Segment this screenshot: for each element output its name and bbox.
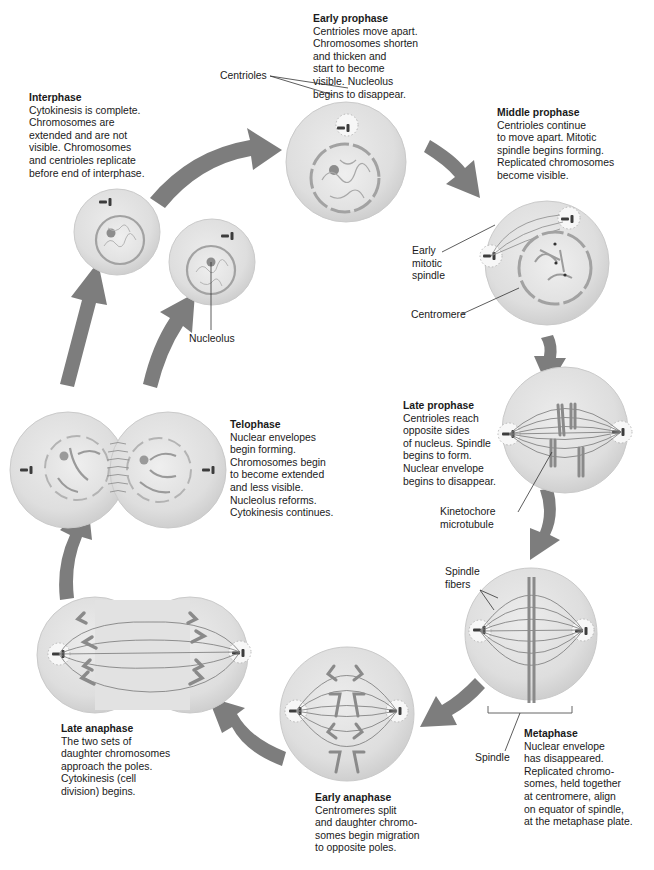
arrow-interphase-to-early-prophase bbox=[150, 128, 282, 208]
caption-line: Cytokinesis continues. bbox=[230, 507, 333, 520]
label-text: Spindle bbox=[445, 566, 480, 579]
middle-prophase-cell bbox=[480, 201, 609, 325]
caption-line: Replicated chromosomes bbox=[497, 157, 614, 170]
arrow-early-to-late-anaphase bbox=[208, 697, 286, 766]
label-text: spindle bbox=[412, 270, 445, 283]
caption-line: daughter chromosomes bbox=[61, 748, 170, 761]
label-text: mitotic bbox=[412, 258, 445, 271]
caption-line: Nuclear envelope bbox=[524, 741, 633, 754]
caption-line: to opposite poles. bbox=[315, 842, 420, 855]
label-text: Kinetochore bbox=[440, 506, 495, 519]
caption-telophase: Telophase Nuclear envelopes begin formin… bbox=[230, 419, 333, 520]
caption-line: begins to form. bbox=[403, 450, 496, 463]
caption-line: has disappeared. bbox=[524, 753, 633, 766]
metaphase-cell bbox=[465, 568, 597, 713]
caption-late-prophase: Late prophase Centrioles reach opposite … bbox=[403, 400, 496, 488]
early-anaphase-cell bbox=[280, 647, 414, 781]
caption-line: Centrioles reach bbox=[403, 413, 496, 426]
label-text: microtubule bbox=[440, 519, 495, 532]
label-text: Early bbox=[412, 245, 445, 258]
arrow-metaphase-to-early-anaphase bbox=[420, 678, 485, 727]
caption-early-prophase: Early prophase Centrioles move apart. Ch… bbox=[313, 13, 418, 101]
spindle-leader bbox=[505, 713, 520, 751]
caption-line: Cytokinesis (cell bbox=[61, 773, 170, 786]
telophase-cell bbox=[10, 412, 226, 528]
caption-line: visible. Chromosomes bbox=[29, 142, 145, 155]
label-text: Centrioles bbox=[220, 70, 267, 83]
caption-title: Middle prophase bbox=[497, 107, 614, 120]
label-early-mitotic-spindle: Early mitotic spindle bbox=[412, 245, 445, 283]
caption-line: Centrioles move apart. bbox=[313, 26, 418, 39]
caption-line: Chromosomes are bbox=[29, 117, 145, 130]
caption-title: Early anaphase bbox=[315, 792, 420, 805]
caption-line: somes begin migration bbox=[315, 830, 420, 843]
label-nucleolus: Nucleolus bbox=[189, 333, 235, 346]
interphase-cell-1 bbox=[74, 189, 160, 275]
caption-line: Replicated chromo- bbox=[524, 766, 633, 779]
early-prophase-cell bbox=[286, 102, 406, 222]
late-anaphase-cell bbox=[37, 597, 251, 713]
label-text: Spindle bbox=[475, 752, 510, 765]
caption-title: Metaphase bbox=[524, 728, 633, 741]
interphase-cell-2 bbox=[169, 219, 255, 305]
caption-line: begins to disappear. bbox=[313, 89, 418, 102]
arrow-telophase-to-interphase-left bbox=[60, 262, 107, 387]
label-text: Nucleolus bbox=[189, 333, 235, 346]
caption-line: on equator of spindle, bbox=[524, 804, 633, 817]
label-spindle-fibers: Spindle fibers bbox=[445, 566, 480, 591]
caption-title: Interphase bbox=[29, 92, 145, 105]
label-text: Centromere bbox=[411, 309, 466, 322]
caption-line: start to become bbox=[313, 63, 418, 76]
caption-line: Chromosomes shorten bbox=[313, 38, 418, 51]
caption-line: Nucleolus reforms. bbox=[230, 495, 333, 508]
caption-line: division) begins. bbox=[61, 786, 170, 799]
arrow-early-to-middle-prophase bbox=[424, 140, 480, 198]
caption-line: Chromosomes begin bbox=[230, 457, 333, 470]
arrow-late-prophase-to-metaphase bbox=[530, 488, 560, 560]
caption-line: spindle begins forming. bbox=[497, 145, 614, 158]
caption-title: Telophase bbox=[230, 419, 333, 432]
label-centrioles: Centrioles bbox=[220, 70, 267, 83]
caption-line: before end of interphase. bbox=[29, 168, 145, 181]
caption-interphase: Interphase Cytokinesis is complete. Chro… bbox=[29, 92, 145, 180]
arrow-telophase-to-interphase-right bbox=[143, 293, 195, 388]
caption-line: to become extended bbox=[230, 469, 333, 482]
caption-title: Early prophase bbox=[313, 13, 418, 26]
caption-metaphase: Metaphase Nuclear envelope has disappear… bbox=[524, 728, 633, 829]
caption-line: at centromere, align bbox=[524, 791, 633, 804]
caption-line: begin forming. bbox=[230, 444, 333, 457]
caption-line: and thicken and bbox=[313, 51, 418, 64]
label-text: fibers bbox=[445, 579, 480, 592]
caption-line: somes, held together bbox=[524, 778, 633, 791]
caption-late-anaphase: Late anaphase The two sets of daughter c… bbox=[61, 723, 170, 799]
caption-line: Centrioles continue bbox=[497, 120, 614, 133]
caption-line: visible. Nucleolus bbox=[313, 76, 418, 89]
caption-line: The two sets of bbox=[61, 736, 170, 749]
caption-line: and less visible. bbox=[230, 482, 333, 495]
caption-title: Late anaphase bbox=[61, 723, 170, 736]
caption-line: to move apart. Mitotic bbox=[497, 132, 614, 145]
caption-title: Late prophase bbox=[403, 400, 496, 413]
caption-line: of nucleus. Spindle bbox=[403, 438, 496, 451]
label-centromere: Centromere bbox=[411, 309, 466, 322]
caption-line: Nuclear envelope bbox=[403, 463, 496, 476]
caption-line: approach the poles. bbox=[61, 761, 170, 774]
label-kinetochore-microtubule: Kinetochore microtubule bbox=[440, 506, 495, 531]
caption-line: become visible. bbox=[497, 170, 614, 183]
caption-early-anaphase: Early anaphase Centromeres split and dau… bbox=[315, 792, 420, 855]
caption-line: Centromeres split bbox=[315, 805, 420, 818]
late-prophase-cell bbox=[498, 367, 632, 493]
caption-line: at the metaphase plate. bbox=[524, 816, 633, 829]
caption-line: opposite sides bbox=[403, 425, 496, 438]
caption-line: Nuclear envelopes bbox=[230, 432, 333, 445]
caption-line: extended and are not bbox=[29, 130, 145, 143]
caption-line: Cytokinesis is complete. bbox=[29, 105, 145, 118]
caption-line: and daughter chromo- bbox=[315, 817, 420, 830]
label-spindle: Spindle bbox=[475, 752, 510, 765]
caption-middle-prophase: Middle prophase Centrioles continue to m… bbox=[497, 107, 614, 183]
caption-line: and centrioles replicate bbox=[29, 155, 145, 168]
caption-line: begins to disappear. bbox=[403, 476, 496, 489]
